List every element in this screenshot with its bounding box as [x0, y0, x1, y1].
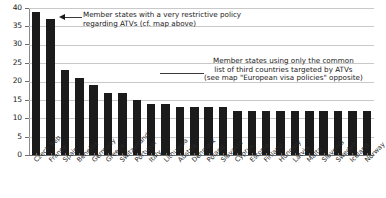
annotation-leader-line	[65, 17, 82, 18]
y-tick-label: 35	[13, 22, 22, 30]
y-tick-label: 5	[17, 133, 22, 141]
annotation-common-list: Member states using only the common list…	[204, 57, 363, 83]
bar	[161, 104, 169, 155]
y-axis: 40 35 30 25 20 15 10 5 0	[0, 0, 29, 165]
y-tick-label: 30	[13, 40, 22, 48]
bar	[32, 12, 40, 155]
y-tick-label: 0	[17, 151, 22, 159]
y-tick-label: 10	[13, 114, 22, 122]
annotation-restrictive-policy: Member states with a very restrictive po…	[83, 11, 241, 28]
bar	[75, 78, 83, 155]
annotation-leader-line	[160, 73, 204, 74]
annotation-line: regarding ATVs (cf. map above)	[83, 20, 241, 29]
y-tick-label: 20	[13, 77, 22, 85]
x-axis-labels: Czech Rep.FranceSpainBeneluxGermanyGreec…	[29, 156, 374, 198]
y-tick-label: 40	[13, 4, 22, 12]
annotation-line: (see map "European visa policies" opposi…	[204, 74, 363, 83]
y-tick-label: 15	[13, 96, 22, 104]
y-tick-label: 25	[13, 59, 22, 67]
bar	[46, 19, 54, 155]
